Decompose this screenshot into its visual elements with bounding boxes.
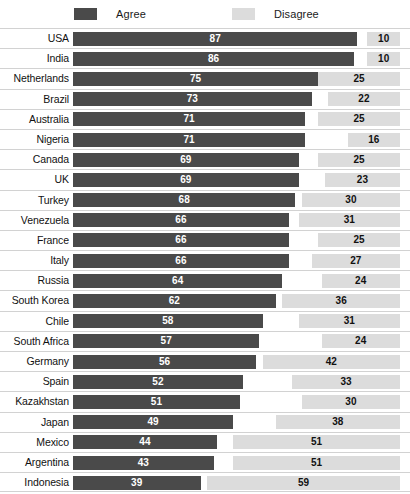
- bar-disagree: 27: [312, 254, 400, 268]
- row-bars: 5233: [73, 372, 400, 391]
- bar-disagree: 23: [325, 173, 400, 187]
- bar-value-disagree: 24: [355, 336, 366, 346]
- bar-value-agree: 44: [139, 437, 150, 447]
- category-label: Turkey: [0, 191, 69, 210]
- bar-value-disagree: 16: [368, 135, 379, 145]
- category-label: Netherlands: [0, 69, 69, 88]
- bar-disagree: 25: [318, 153, 400, 167]
- bar-value-disagree: 42: [326, 357, 337, 367]
- bar-disagree: 22: [328, 92, 400, 106]
- category-label: Indonesia: [0, 473, 69, 492]
- bar-value-agree: 71: [183, 114, 194, 124]
- bar-disagree: 36: [282, 294, 400, 308]
- chart-row: Germany5642: [0, 351, 410, 371]
- bar-agree: 56: [73, 355, 256, 369]
- bar-disagree: 25: [318, 112, 400, 126]
- bar-value-disagree: 25: [353, 155, 364, 165]
- row-bars: 7125: [73, 110, 400, 129]
- chart-root: Agree Disagree USA8710India8610Netherlan…: [0, 0, 410, 494]
- category-label: UK: [0, 170, 69, 189]
- bar-disagree: 25: [318, 233, 400, 247]
- bar-agree: 57: [73, 334, 259, 348]
- bar-value-disagree: 59: [298, 478, 309, 488]
- category-label: Mexico: [0, 433, 69, 452]
- bar-agree: 58: [73, 314, 263, 328]
- bar-value-agree: 69: [180, 175, 191, 185]
- bar-agree: 66: [73, 233, 289, 247]
- bar-disagree: 30: [302, 395, 400, 409]
- chart-row: Italy6627: [0, 250, 410, 270]
- bar-agree: 52: [73, 375, 243, 389]
- bar-agree: 71: [73, 133, 305, 147]
- agree-swatch-icon: [74, 8, 97, 20]
- chart-row: Kazakhstan5130: [0, 391, 410, 411]
- bar-disagree: 31: [299, 213, 400, 227]
- bar-agree: 62: [73, 294, 276, 308]
- bar-value-agree: 68: [179, 195, 190, 205]
- chart-row: Brazil7322: [0, 89, 410, 109]
- bar-disagree: 10: [367, 32, 400, 46]
- bar-agree: 64: [73, 274, 282, 288]
- legend-item-agree: Agree: [74, 0, 146, 28]
- chart-row: USA8710: [0, 28, 410, 48]
- bar-agree: 49: [73, 415, 233, 429]
- row-bars: 6923: [73, 170, 400, 189]
- chart-row: Netherlands7525: [0, 68, 410, 88]
- category-label: South Africa: [0, 332, 69, 351]
- bar-value-disagree: 25: [353, 114, 364, 124]
- bar-disagree: 31: [299, 314, 400, 328]
- bar-value-disagree: 22: [358, 94, 369, 104]
- bar-value-agree: 66: [175, 235, 186, 245]
- category-label: USA: [0, 29, 69, 48]
- row-bars: 7525: [73, 69, 400, 88]
- bar-value-agree: 43: [138, 458, 149, 468]
- chart-row: India8610: [0, 48, 410, 68]
- bar-agree: 39: [73, 476, 201, 490]
- category-label: Canada: [0, 150, 69, 169]
- disagree-swatch-icon: [232, 8, 255, 20]
- category-label: Venezuela: [0, 211, 69, 230]
- chart-row: France6625: [0, 230, 410, 250]
- bar-value-agree: 58: [162, 316, 173, 326]
- bar-agree: 44: [73, 435, 217, 449]
- bar-disagree: 42: [263, 355, 400, 369]
- row-bars: 5130: [73, 392, 400, 411]
- chart-row: Indonesia3959: [0, 472, 410, 492]
- bar-value-disagree: 27: [350, 256, 361, 266]
- bar-value-disagree: 31: [344, 316, 355, 326]
- category-label: Chile: [0, 312, 69, 331]
- chart-row: Turkey6830: [0, 190, 410, 210]
- bar-agree: 69: [73, 173, 299, 187]
- bar-disagree: 33: [292, 375, 400, 389]
- category-label: Argentina: [0, 453, 69, 472]
- row-bars: 6627: [73, 251, 400, 270]
- bar-disagree: 51: [233, 456, 400, 470]
- chart-row: South Africa5724: [0, 331, 410, 351]
- bar-value-disagree: 30: [345, 397, 356, 407]
- row-bars: 6631: [73, 211, 400, 230]
- bar-agree: 66: [73, 254, 289, 268]
- category-label: Russia: [0, 271, 69, 290]
- chart-row: Spain5233: [0, 371, 410, 391]
- row-bars: 8710: [73, 29, 400, 48]
- row-bars: 6424: [73, 271, 400, 290]
- chart-row: Chile5831: [0, 311, 410, 331]
- bar-value-agree: 86: [208, 54, 219, 64]
- bar-value-disagree: 30: [345, 195, 356, 205]
- category-label: Nigeria: [0, 130, 69, 149]
- bar-value-agree: 62: [169, 296, 180, 306]
- bar-disagree: 38: [276, 415, 400, 429]
- bar-value-disagree: 25: [353, 74, 364, 84]
- chart-row: South Korea6236: [0, 290, 410, 310]
- bar-value-disagree: 51: [311, 437, 322, 447]
- bar-value-disagree: 33: [340, 377, 351, 387]
- bar-value-disagree: 38: [332, 417, 343, 427]
- bar-disagree: 24: [322, 274, 400, 288]
- bar-disagree: 25: [318, 72, 400, 86]
- chart-legend: Agree Disagree: [0, 0, 410, 28]
- bar-value-agree: 69: [180, 155, 191, 165]
- legend-label-disagree: Disagree: [274, 8, 319, 20]
- bar-disagree: 24: [322, 334, 400, 348]
- bar-value-agree: 73: [187, 94, 198, 104]
- bar-agree: 75: [73, 72, 318, 86]
